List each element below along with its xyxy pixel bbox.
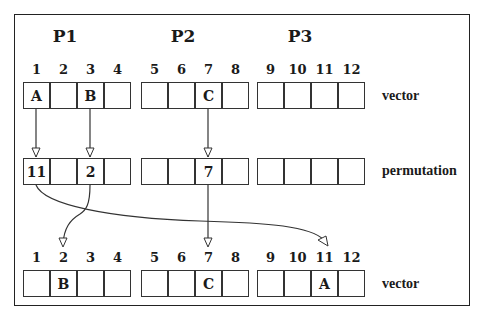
arrowhead-icon bbox=[32, 148, 40, 157]
arrow-2-curve bbox=[63, 185, 90, 244]
arrowhead-icon bbox=[86, 148, 94, 157]
arrow-layer bbox=[0, 0, 485, 325]
arrowhead-icon bbox=[59, 238, 67, 247]
arrow-11-curve bbox=[36, 185, 324, 240]
arrowhead-icon bbox=[204, 148, 212, 157]
arrowhead-icon bbox=[204, 238, 212, 247]
arrowhead-icon bbox=[318, 236, 328, 246]
